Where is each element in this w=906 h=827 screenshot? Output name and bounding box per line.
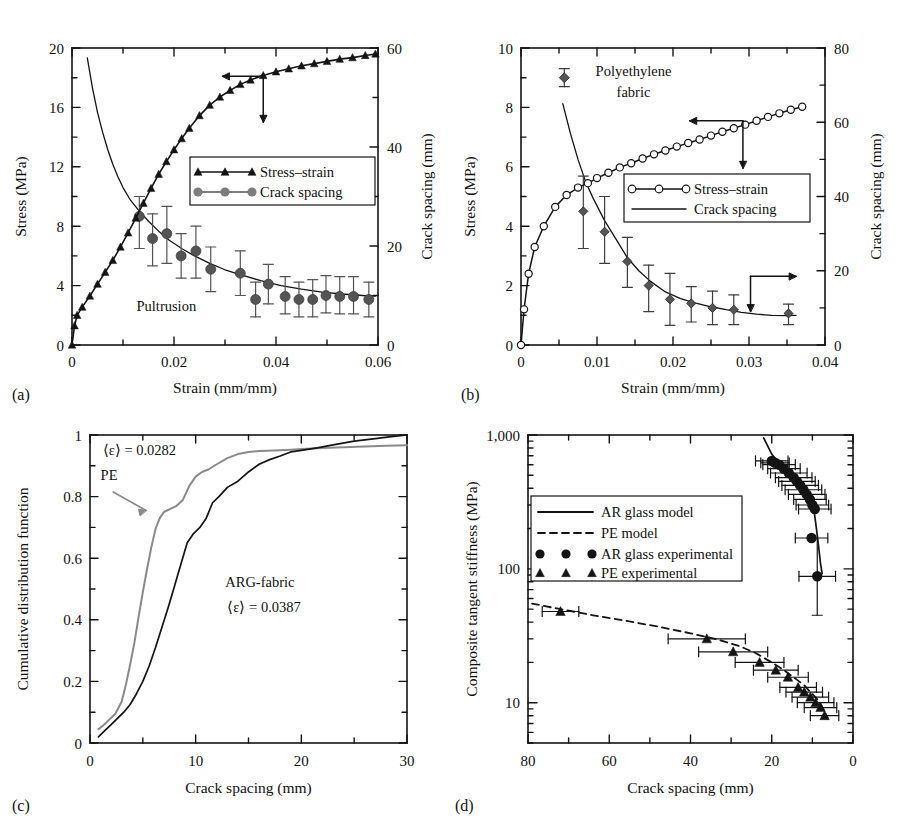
figure-root: 00.020.040.06Strain (mm/mm)048121620Stre…: [0, 0, 906, 827]
svg-text:PE model: PE model: [601, 525, 658, 541]
svg-text:12: 12: [49, 159, 64, 175]
svg-text:6: 6: [506, 159, 514, 175]
svg-text:20: 20: [387, 239, 402, 255]
svg-text:Crack spacing (mm): Crack spacing (mm): [185, 779, 312, 797]
svg-text:Strain (mm/mm): Strain (mm/mm): [173, 379, 277, 397]
series-ar-glass-experimental: [756, 456, 836, 616]
svg-text:8: 8: [57, 219, 65, 235]
svg-text:1: 1: [75, 428, 83, 444]
svg-text:2: 2: [506, 278, 514, 294]
y2-axis-ticks: 020406080: [817, 41, 849, 354]
svg-text:Polyethylene: Polyethylene: [596, 63, 672, 79]
svg-text:Composite tangent stiffness (M: Composite tangent stiffness (MPa): [463, 481, 481, 696]
svg-text:(c): (c): [12, 797, 30, 815]
svg-text:(b): (b): [461, 386, 480, 404]
svg-text:8: 8: [506, 100, 514, 116]
svg-text:0.02: 0.02: [161, 354, 187, 370]
svg-text:40: 40: [683, 753, 698, 769]
svg-text:20: 20: [764, 753, 779, 769]
svg-text:Cumulative distribution functi: Cumulative distribution function: [14, 487, 31, 690]
svg-text:Stress–strain: Stress–strain: [694, 181, 769, 197]
svg-text:60: 60: [602, 753, 617, 769]
panel-c-svg: 0102030Crack spacing (mm)00.20.40.60.81C…: [0, 413, 453, 827]
svg-text:60: 60: [834, 115, 849, 131]
svg-text:80: 80: [834, 41, 849, 57]
svg-text:Stress (MPa): Stress (MPa): [461, 156, 479, 237]
panel-a-svg: 00.020.040.06Strain (mm/mm)048121620Stre…: [0, 0, 453, 413]
svg-text:⟨ε⟩ = 0.0387: ⟨ε⟩ = 0.0387: [227, 599, 300, 615]
panel-b-annotation: Polyethylenefabric: [559, 63, 671, 100]
svg-text:0: 0: [75, 736, 83, 752]
panel-c-cumulative-distribution: 0102030Crack spacing (mm)00.20.40.60.81C…: [0, 413, 453, 827]
svg-text:10: 10: [188, 753, 203, 769]
panel-c-annotations: ⟨ε⟩ = 0.0282PEARG-fabric⟨ε⟩ = 0.0387: [101, 442, 301, 615]
svg-text:60: 60: [387, 41, 402, 57]
panel-a-legend: Stress–strainCrack spacing: [190, 157, 375, 205]
svg-text:0.2: 0.2: [63, 674, 82, 690]
svg-text:AR glass model: AR glass model: [601, 504, 694, 520]
svg-text:Strain (mm/mm): Strain (mm/mm): [621, 379, 725, 397]
svg-text:0: 0: [506, 338, 514, 354]
svg-text:0: 0: [387, 338, 395, 354]
svg-text:ARG-fabric: ARG-fabric: [225, 574, 294, 590]
svg-text:0: 0: [86, 753, 94, 769]
svg-text:PE experimental: PE experimental: [601, 565, 697, 581]
axis-pointer-arrows: [222, 73, 266, 122]
svg-text:10: 10: [498, 41, 513, 57]
svg-text:0.02: 0.02: [660, 354, 686, 370]
svg-text:80: 80: [521, 753, 536, 769]
panel-a-stress-strain-pultrusion: 00.020.040.06Strain (mm/mm)048121620Stre…: [0, 0, 453, 413]
svg-text:Crack spacing: Crack spacing: [260, 184, 343, 200]
svg-text:Stress (MPa): Stress (MPa): [12, 156, 30, 237]
svg-text:20: 20: [294, 753, 309, 769]
svg-text:0: 0: [849, 753, 857, 769]
svg-text:Crack spacing (mm): Crack spacing (mm): [627, 779, 754, 797]
svg-text:1,000: 1,000: [486, 428, 520, 444]
panel-d-legend: AR glass modelPE modelAR glass experimen…: [531, 496, 742, 581]
svg-text:fabric: fabric: [617, 84, 651, 100]
svg-text:0.06: 0.06: [365, 354, 392, 370]
svg-text:0.6: 0.6: [63, 551, 82, 567]
panel-b-legend: Stress–strainCrack spacing: [624, 174, 810, 222]
svg-text:PE: PE: [101, 467, 118, 483]
panel-b-svg: 00.010.020.030.04Strain (mm/mm)0246810St…: [453, 0, 906, 413]
svg-text:0: 0: [68, 354, 76, 370]
svg-text:0.4: 0.4: [63, 612, 82, 628]
svg-text:⟨ε⟩ = 0.0282: ⟨ε⟩ = 0.0282: [103, 442, 176, 458]
svg-text:4: 4: [506, 219, 514, 235]
svg-text:Crack spacing: Crack spacing: [694, 201, 777, 217]
svg-text:20: 20: [49, 41, 64, 57]
svg-text:40: 40: [387, 140, 402, 156]
svg-text:0.01: 0.01: [584, 354, 610, 370]
svg-text:Pultrusion: Pultrusion: [137, 298, 197, 314]
y-axis-ticks: 048121620: [49, 41, 80, 354]
svg-text:0: 0: [57, 338, 65, 354]
svg-text:0.8: 0.8: [63, 489, 82, 505]
panel-d-svg: 806040200Crack spacing (mm)101001,000Com…: [453, 413, 906, 827]
panel-b-stress-strain-polyethylene: 00.010.020.030.04Strain (mm/mm)0246810St…: [453, 0, 906, 413]
panel-d-tangent-stiffness: 806040200Crack spacing (mm)101001,000Com…: [453, 413, 906, 827]
svg-text:Crack spacing (mm): Crack spacing (mm): [418, 133, 436, 260]
svg-text:0: 0: [517, 354, 525, 370]
svg-text:0.04: 0.04: [812, 354, 839, 370]
svg-text:(a): (a): [12, 386, 30, 404]
svg-text:0.04: 0.04: [263, 354, 290, 370]
svg-text:Crack spacing (mm): Crack spacing (mm): [867, 133, 885, 260]
svg-text:30: 30: [400, 753, 415, 769]
svg-text:(d): (d): [455, 797, 474, 815]
svg-text:10: 10: [505, 695, 520, 711]
series-stress-strain: [517, 103, 805, 348]
svg-text:Stress–strain: Stress–strain: [260, 164, 335, 180]
series-pe-experimental: [542, 607, 839, 721]
svg-text:AR glass experimental: AR glass experimental: [601, 546, 733, 562]
svg-text:16: 16: [49, 100, 65, 116]
svg-text:40: 40: [834, 189, 849, 205]
svg-text:0.03: 0.03: [736, 354, 762, 370]
x-axis-ticks: 00.020.040.06: [68, 48, 391, 370]
svg-text:4: 4: [57, 278, 65, 294]
svg-text:0: 0: [834, 338, 842, 354]
svg-text:20: 20: [834, 263, 849, 279]
svg-text:100: 100: [498, 561, 521, 577]
